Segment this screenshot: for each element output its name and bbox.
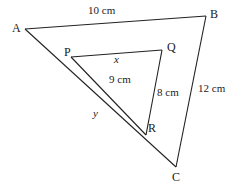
vertex-label-a: A <box>12 21 21 35</box>
side-pr <box>71 57 146 135</box>
side-ab-length: 10 cm <box>88 4 116 16</box>
side-ac-variable: y <box>92 107 98 119</box>
vertex-label-q: Q <box>167 40 176 54</box>
side-pq-variable: x <box>113 53 119 65</box>
vertex-label-p: P <box>64 45 71 59</box>
vertex-label-r: R <box>148 121 156 135</box>
side-bc-length: 12 cm <box>198 82 226 94</box>
vertex-label-c: C <box>172 170 180 184</box>
outer-triangle <box>25 16 206 167</box>
side-pr-length: 9 cm <box>109 73 131 85</box>
side-ab <box>25 16 206 29</box>
similar-triangles-diagram: A B C P Q R 10 cm 12 cm y x 8 cm 9 cm <box>0 0 235 193</box>
vertex-label-b: B <box>210 7 218 21</box>
side-qr-length: 8 cm <box>157 86 179 98</box>
